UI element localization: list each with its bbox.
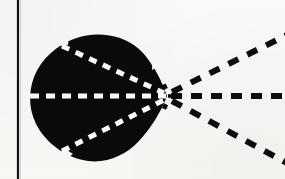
technical-diagram (0, 0, 285, 179)
figure-canvas: Radiation lobe diagram Scanned monochrom… (0, 0, 285, 179)
